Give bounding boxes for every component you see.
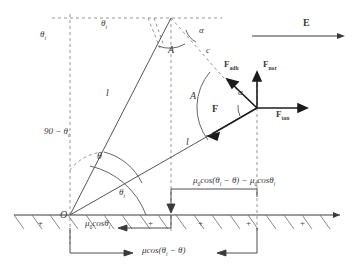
- label-angle-theta: θ: [97, 151, 102, 161]
- label-length-lower-l: l: [186, 137, 189, 147]
- label-force-F: F: [212, 104, 218, 114]
- label-measure-mu0-cos-theta-i: μ0cosθi: [85, 219, 110, 230]
- diagram-canvas: θi θi α A c A l l 90 − θi θ θi O E Fadh …: [0, 0, 355, 268]
- charge-plus-3: +: [198, 219, 203, 228]
- arc-force-alpha: [238, 105, 240, 116]
- label-side-c: c: [206, 46, 210, 55]
- arc-origin-theta-i: [90, 166, 146, 215]
- vector-f: [212, 108, 257, 134]
- label-angle-theta-i: θi: [119, 188, 125, 199]
- arrowhead-f-tan: [298, 104, 307, 112]
- label-measure-top-expression: μ0cos(θi − θ) − μ0cosθi: [193, 176, 275, 187]
- charge-plus-1: +: [38, 219, 43, 228]
- dashed-guides: [70, 14, 257, 244]
- dimension-mu0-cos-theta-i: [118, 215, 171, 231]
- arc-mid-A: [197, 72, 210, 140]
- charge-plus-2: +: [148, 219, 153, 228]
- label-length-left-l: l: [106, 88, 109, 98]
- force-vector-group: [208, 72, 307, 140]
- label-force-adh: Fadh: [224, 60, 239, 71]
- arc-origin-theta: [104, 152, 142, 183]
- label-origin-O: O: [60, 210, 67, 220]
- label-force-nor: Fnor: [263, 60, 277, 71]
- limb-left-l: [70, 18, 171, 215]
- charge-plus-4: +: [246, 219, 251, 228]
- arrowhead-f-nor: [253, 72, 261, 81]
- construction-lines: [70, 18, 257, 170]
- dimension-mu0-cos-diff: [167, 189, 257, 213]
- arrowhead-f: [208, 133, 219, 140]
- arrowhead-f-adh: [227, 79, 238, 88]
- label-apex-theta-i: θi: [40, 30, 46, 41]
- label-apex-alpha: α: [199, 26, 204, 35]
- baseline-arrowhead: [333, 212, 340, 218]
- electric-field-arrow: [252, 33, 345, 39]
- arc-apex-alpha: [186, 30, 196, 42]
- label-arc-A-top: A: [168, 45, 174, 55]
- label-force-tan: Ftan: [276, 110, 289, 121]
- label-apex-theta-i-main: θi: [101, 19, 107, 30]
- charge-plus-5: +: [300, 219, 305, 228]
- label-90-minus-theta-i: 90 − θi: [44, 127, 70, 138]
- label-arc-A-mid: A: [190, 91, 196, 101]
- label-field-E: E: [303, 18, 310, 28]
- label-measure-mu-cos-diff: μcos(θi − θ): [142, 246, 186, 257]
- label-force-alpha: α: [238, 88, 243, 97]
